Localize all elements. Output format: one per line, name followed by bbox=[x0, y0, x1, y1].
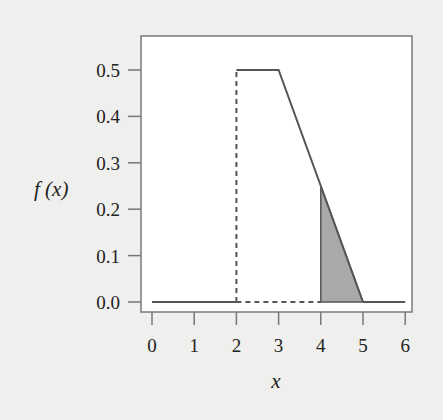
y-axis-title: f (x) bbox=[34, 177, 68, 201]
y-tick-label: 0.2 bbox=[96, 199, 120, 220]
x-tick-label: 1 bbox=[189, 335, 199, 356]
y-tick-label: 0.0 bbox=[96, 292, 120, 313]
x-tick-label: 0 bbox=[147, 335, 157, 356]
x-axis: 0123456 bbox=[147, 312, 410, 356]
x-axis-title: x bbox=[270, 369, 281, 393]
x-tick-label: 5 bbox=[358, 335, 368, 356]
x-tick-label: 4 bbox=[316, 335, 326, 356]
y-tick-label: 0.1 bbox=[96, 246, 120, 267]
y-axis: 0.00.10.20.30.40.5 bbox=[96, 60, 141, 313]
plot-area bbox=[141, 36, 412, 312]
y-tick-label: 0.3 bbox=[96, 153, 120, 174]
x-tick-label: 3 bbox=[274, 335, 284, 356]
x-tick-label: 2 bbox=[232, 335, 242, 356]
y-tick-label: 0.4 bbox=[96, 106, 120, 127]
x-tick-label: 6 bbox=[400, 335, 410, 356]
density-chart: 0.00.10.20.30.40.5 0123456 f (x) x bbox=[0, 0, 443, 420]
y-tick-label: 0.5 bbox=[96, 60, 120, 81]
